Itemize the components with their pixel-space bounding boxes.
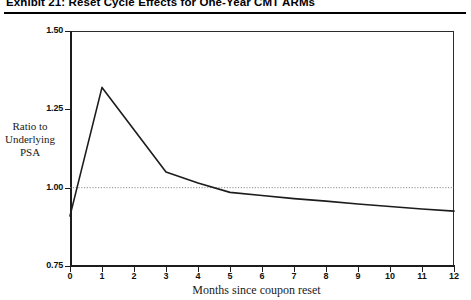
data-series-line [70,87,454,215]
x-tick-mark [134,267,135,272]
x-tick-mark [70,267,71,272]
x-tick-label: 12 [443,271,465,281]
x-tick-label: 6 [251,271,273,281]
x-tick-mark [166,267,167,272]
y-axis-title-line-3: PSA [0,146,66,159]
x-tick-label: 4 [187,271,209,281]
x-tick-mark [230,267,231,272]
y-tick-mark [65,31,71,32]
y-tick-mark [65,188,71,189]
x-tick-mark [454,267,455,272]
x-tick-label: 3 [155,271,177,281]
x-tick-mark [102,267,103,272]
y-axis-title: Ratio to Underlying PSA [0,120,66,159]
y-tick-label: 1.00 [29,182,63,192]
x-tick-label: 1 [91,271,113,281]
x-tick-mark [390,267,391,272]
y-axis-title-line-1: Ratio to [0,120,66,133]
x-tick-mark [326,267,327,272]
y-axis-title-line-2: Underlying [0,133,66,146]
x-tick-mark [294,267,295,272]
y-tick-label: 0.75 [29,260,63,270]
x-tick-mark [422,267,423,272]
x-tick-label: 9 [347,271,369,281]
y-tick-mark [65,109,71,110]
x-tick-label: 5 [219,271,241,281]
chart-canvas [0,0,471,300]
x-tick-label: 0 [59,271,81,281]
x-axis-title: Months since coupon reset [0,283,471,298]
x-tick-mark [198,267,199,272]
y-tick-label: 1.25 [29,103,63,113]
y-tick-label: 1.50 [29,25,63,35]
x-tick-label: 2 [123,271,145,281]
x-tick-label: 7 [283,271,305,281]
x-tick-label: 8 [315,271,337,281]
x-tick-label: 10 [379,271,401,281]
x-tick-mark [358,267,359,272]
x-tick-mark [262,267,263,272]
x-axis-title-text: Months since coupon reset [192,283,320,298]
exhibit-figure: Exhibit 21: Reset Cycle Effects for One-… [0,0,471,300]
x-tick-label: 11 [411,271,433,281]
